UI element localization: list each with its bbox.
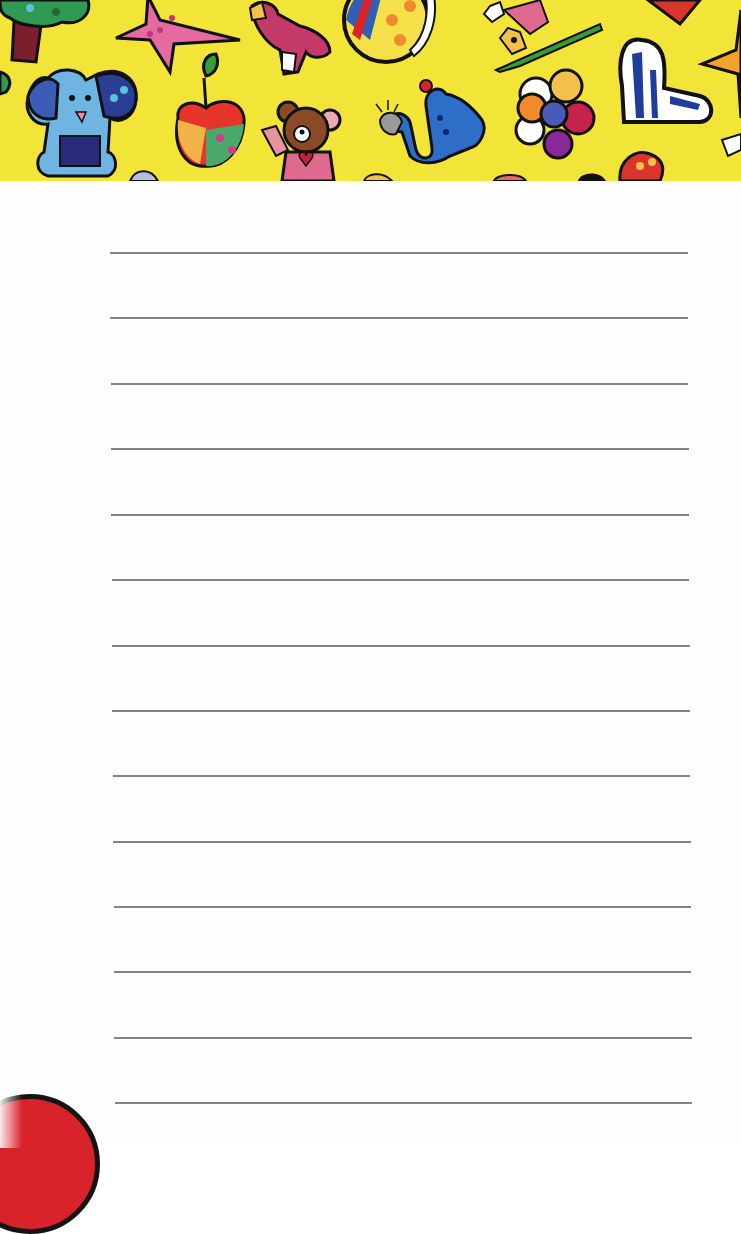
ruled-line [110,252,688,254]
elephant-icon [27,70,136,176]
ruled-line [111,383,688,385]
ruled-line [111,448,689,450]
ball-icon [344,0,435,62]
ruled-line [112,710,690,712]
ruled-line [111,514,689,516]
ruled-line [110,317,688,319]
flower-icon [516,70,594,158]
ruled-line [114,1037,692,1039]
bird-icon [250,2,330,74]
lined-paper [0,181,741,1144]
ruled-line [113,775,690,777]
corner-shadow [0,1088,22,1148]
ruled-line [115,1102,692,1104]
heart-icon [620,40,711,122]
snake-icon [376,80,484,163]
heart-top-icon [648,0,700,24]
decorative-banner [0,0,741,181]
ruled-line [113,841,691,843]
apple-icon [177,54,245,166]
star-icon [116,0,240,72]
ruled-line [112,645,690,647]
ruled-line [114,971,691,973]
ruled-line [112,579,689,581]
alligator-icon [484,0,602,72]
teddy-bear-icon [262,102,340,181]
ruled-line [114,906,691,908]
banner-illustrations [0,0,741,181]
